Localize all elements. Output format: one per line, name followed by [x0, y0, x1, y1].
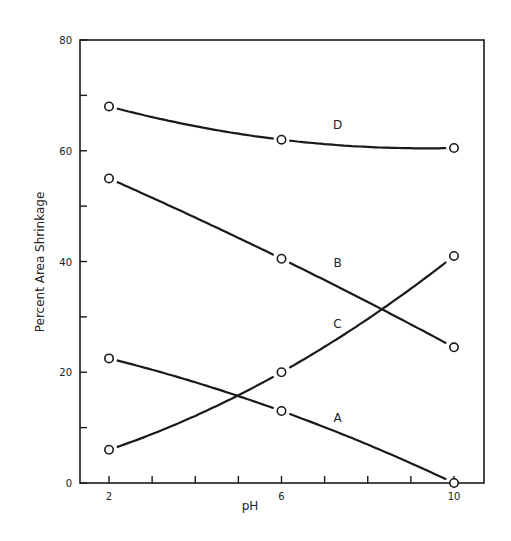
data-series [105, 102, 458, 487]
series-line [117, 182, 274, 255]
data-point-marker [277, 407, 285, 415]
curve-label-A: A [333, 411, 342, 425]
curve-label-C: C [333, 317, 341, 331]
data-point-marker [277, 255, 285, 263]
series-C [105, 252, 458, 454]
data-point-marker [277, 135, 285, 143]
series-line [289, 262, 446, 368]
data-point-marker [450, 343, 458, 351]
series-line [117, 377, 274, 448]
x-axis: 2610 [106, 476, 461, 502]
data-point-marker [277, 368, 285, 376]
x-tick-label: 6 [278, 491, 284, 502]
data-point-marker [105, 174, 113, 182]
y-axis-title: Percent Area Shrinkage [33, 192, 47, 333]
x-axis-title: pH [242, 499, 259, 513]
y-tick-label: 60 [59, 146, 72, 157]
data-point-marker [450, 479, 458, 487]
series-line [117, 109, 274, 139]
curve-label-B: B [333, 256, 341, 270]
series-B [105, 174, 458, 351]
y-tick-label: 20 [59, 367, 72, 378]
curve-label-D: D [333, 118, 342, 132]
data-point-marker [450, 252, 458, 260]
series-line [289, 414, 446, 480]
data-point-marker [105, 354, 113, 362]
data-point-marker [450, 144, 458, 152]
y-tick-label: 0 [66, 478, 72, 489]
series-D [105, 102, 458, 152]
chart: 020406080 2610 DBCA pH Percent Area Shri… [0, 0, 511, 541]
curve-labels: DBCA [333, 118, 343, 425]
data-point-marker [105, 102, 113, 110]
x-tick-label: 2 [106, 491, 112, 502]
series-line [289, 263, 446, 344]
y-tick-label: 40 [59, 257, 72, 268]
x-tick-label: 10 [448, 491, 461, 502]
series-line [117, 360, 274, 408]
data-point-marker [105, 446, 113, 454]
y-tick-label: 80 [59, 35, 72, 46]
series-line [289, 141, 446, 149]
y-axis: 020406080 [59, 35, 87, 489]
